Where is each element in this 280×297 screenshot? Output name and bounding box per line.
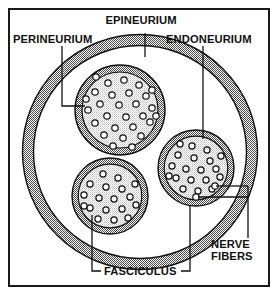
label-epineurium: EPINEURIUM: [96, 14, 186, 26]
fascicle-right: [158, 130, 234, 206]
label-nerve-fibers-line1: NERVE: [211, 238, 250, 250]
diagram-canvas: EPINEURIUM PERINEURIUM ENDONEURIUM FASCI…: [0, 0, 280, 297]
label-nerve-fibers-line2: FIBERS: [211, 250, 253, 262]
label-perineurium: PERINEURIUM: [13, 33, 92, 45]
label-fasciculus: FASCICULUS: [104, 265, 176, 277]
fascicle-upper-left: [75, 65, 165, 155]
label-endoneurium: ENDONEURIUM: [166, 33, 252, 45]
fascicle-lower-left: [72, 158, 148, 234]
